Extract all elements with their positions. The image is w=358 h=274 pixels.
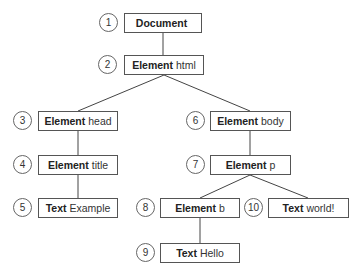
node-number-badge: 1 bbox=[99, 13, 118, 32]
node-kind: Element bbox=[175, 202, 216, 214]
node-kind: Document bbox=[136, 17, 187, 29]
node-value: world! bbox=[306, 202, 334, 214]
node-kind: Element bbox=[217, 115, 258, 127]
node-element-html: Element html bbox=[124, 55, 204, 75]
dom-tree-diagram: 1 Document 2 Element html 3 Element head… bbox=[0, 0, 358, 274]
node-kind: Element bbox=[48, 159, 89, 171]
node-value: title bbox=[92, 159, 108, 171]
node-element-p: Element p bbox=[210, 155, 291, 175]
tree-edges bbox=[0, 0, 358, 274]
edge-2-6 bbox=[164, 75, 250, 111]
node-element-title: Element title bbox=[38, 155, 118, 175]
node-value: Example bbox=[69, 202, 110, 214]
edge-2-3 bbox=[78, 75, 164, 111]
node-number-badge: 2 bbox=[98, 55, 117, 74]
node-number-badge: 3 bbox=[13, 111, 32, 130]
node-number-badge: 7 bbox=[186, 155, 205, 174]
edge-7-10 bbox=[250, 175, 308, 198]
node-text-hello: Text Hello bbox=[160, 243, 240, 263]
node-value: p bbox=[270, 159, 276, 171]
node-element-b: Element b bbox=[160, 198, 240, 218]
node-number-badge: 9 bbox=[136, 243, 155, 262]
node-value: b bbox=[219, 202, 225, 214]
node-document: Document bbox=[124, 13, 202, 33]
edge-7-8 bbox=[200, 175, 250, 198]
node-element-head: Element head bbox=[38, 111, 118, 131]
node-kind: Text bbox=[283, 202, 304, 214]
node-text-example: Text Example bbox=[38, 198, 118, 218]
node-text-world: Text world! bbox=[268, 198, 349, 218]
node-kind: Text bbox=[176, 247, 197, 259]
node-value: body bbox=[261, 115, 284, 127]
node-value: html bbox=[176, 59, 196, 71]
node-number-badge: 8 bbox=[136, 198, 155, 217]
node-number-badge: 10 bbox=[244, 198, 263, 217]
node-kind: Element bbox=[226, 159, 267, 171]
node-number-badge: 5 bbox=[13, 198, 32, 217]
node-value: head bbox=[88, 115, 111, 127]
node-number-badge: 4 bbox=[13, 155, 32, 174]
node-number-badge: 6 bbox=[186, 111, 205, 130]
node-kind: Element bbox=[132, 59, 173, 71]
node-element-body: Element body bbox=[210, 111, 291, 131]
node-kind: Text bbox=[46, 202, 67, 214]
node-value: Hello bbox=[200, 247, 224, 259]
node-kind: Element bbox=[44, 115, 85, 127]
